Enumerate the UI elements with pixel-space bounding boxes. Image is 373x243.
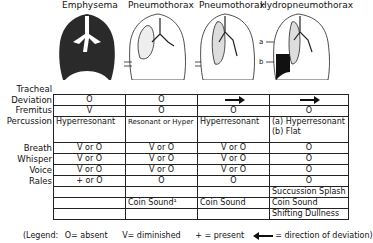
pneumothorax-lung-illustration-2 (195, 12, 257, 80)
legend-open: (Legend: (23, 231, 58, 240)
cell: V or O (126, 154, 198, 165)
arrow-left-icon (255, 235, 273, 237)
cell (198, 187, 270, 198)
column-title-emphysema: Emphysema (62, 0, 118, 11)
cell: + or O (54, 176, 126, 187)
cell: V or O (54, 143, 126, 154)
table-row-whisper: V or O V or O V or O O (54, 154, 349, 165)
table-row-deviation: O O (54, 95, 349, 106)
legend-absent: O= absent (65, 231, 108, 240)
arrow-right-icon (225, 99, 243, 101)
cell: (b) Flat (270, 127, 349, 137)
row-label-percussion: Percussion (7, 116, 52, 126)
cell: Coin Sound¹ (126, 198, 198, 209)
row-label-voice: Voice (29, 165, 52, 175)
hydro-label-b: b (259, 58, 263, 66)
pneumothorax-lung-illustration-1 (124, 12, 190, 80)
cell: V or O (126, 165, 198, 176)
cell (126, 127, 198, 137)
table-row-percussion: Hyperresonant Resonant or Hyper Hyperres… (54, 117, 349, 128)
cell: V or O (198, 154, 270, 165)
emphysema-lung-illustration (57, 12, 117, 80)
row-label-tracheal: Tracheal (16, 84, 52, 94)
cell: Hyperresonant (54, 117, 126, 128)
column-title-pneumothorax-2: Pneumothorax (199, 0, 265, 11)
cell: O (270, 143, 349, 154)
column-title-pneumothorax-1: Pneumothorax (128, 0, 194, 11)
cell: (a) Hyperresonant (270, 117, 349, 128)
cell: Coin Sound (198, 198, 270, 209)
cell (270, 95, 349, 106)
cell (54, 198, 126, 209)
table-row-rales: + or O O O O (54, 176, 349, 187)
cell: O (270, 106, 349, 117)
cell: O (270, 154, 349, 165)
cell: O (126, 176, 198, 187)
cell: Coin Sound (270, 198, 349, 209)
arrow-right-icon (300, 99, 318, 101)
table-row-extra-3: Shifting Dullness (54, 209, 349, 220)
cell (198, 127, 270, 137)
cell: Succussion Splash (270, 187, 349, 198)
cell: Hyperresonant (198, 117, 270, 128)
cell: Shifting Dullness (270, 209, 349, 220)
cell (54, 127, 126, 137)
row-label-deviation: Deviation (11, 95, 52, 105)
column-title-hydropneumothorax: Hydropneumothorax (260, 0, 353, 11)
legend-diminished: V= diminished (122, 231, 181, 240)
cell: O (198, 176, 270, 187)
cell (54, 187, 126, 198)
cell: O (126, 95, 198, 106)
table-row-percussion-b: (b) Flat (54, 127, 349, 137)
cell: Resonant or Hyper (126, 117, 198, 128)
cell: V (54, 106, 126, 117)
table-row-fremitus: V O O O (54, 106, 349, 117)
legend-present: + = present (195, 231, 244, 240)
hydropneumothorax-lung-illustration (262, 12, 332, 80)
legend-direction: = direction of deviation) (275, 231, 372, 240)
table-row-voice: V or O V or O V or O O (54, 165, 349, 176)
cell: V or O (126, 143, 198, 154)
cell: V or O (54, 165, 126, 176)
hydro-label-a: a (259, 38, 263, 46)
cell: V or O (54, 154, 126, 165)
row-label-whisper: Whisper (17, 154, 52, 164)
legend: (Legend: O= absent V= diminished + = pre… (23, 231, 373, 240)
cell (126, 209, 198, 220)
table-row-breath: V or O V or O V or O O (54, 143, 349, 154)
cell: O (126, 106, 198, 117)
row-label-rales: Rales (29, 176, 52, 186)
cell (198, 95, 270, 106)
cell: O (270, 176, 349, 187)
cell (198, 209, 270, 220)
cell: V or O (198, 165, 270, 176)
cell: O (198, 106, 270, 117)
table-row-extra-2: Coin Sound¹ Coin Sound Coin Sound (54, 198, 349, 209)
cell (54, 209, 126, 220)
findings-table: O O V O O O Hyperresonant Resonant or Hy… (53, 94, 349, 220)
row-label-breath: Breath (24, 143, 52, 153)
table-row-extra-1: Succussion Splash (54, 187, 349, 198)
cell (126, 187, 198, 198)
cell: V or O (198, 143, 270, 154)
row-label-fremitus: Fremitus (15, 105, 52, 115)
cell: O (54, 95, 126, 106)
cell: O (270, 165, 349, 176)
